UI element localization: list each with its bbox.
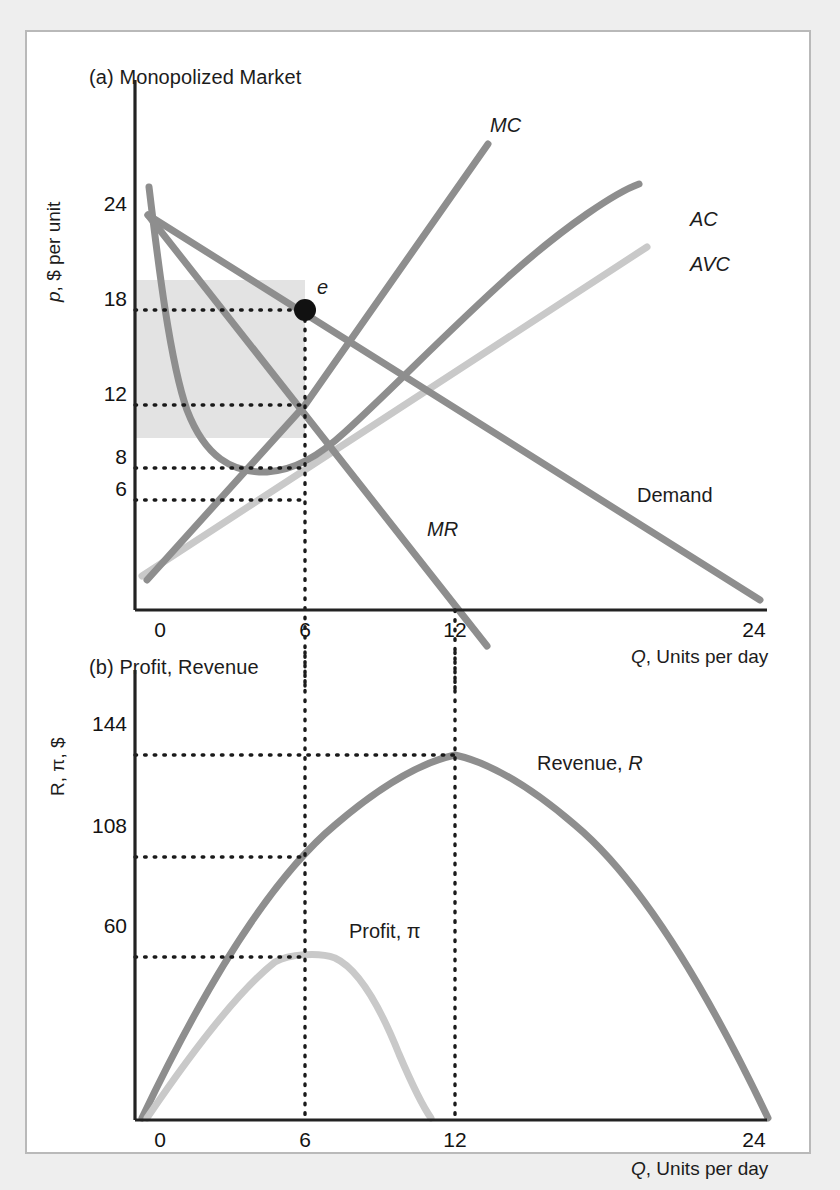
panel-a-xtick-12: 12 xyxy=(430,618,480,642)
curve-label-mr: MR xyxy=(427,518,458,541)
panel-a-xtick-24: 24 xyxy=(729,618,779,642)
panel-b-xtick-24: 24 xyxy=(729,1128,779,1152)
panel-a-x-axis-symbol: Q xyxy=(631,646,646,667)
panel-a-y-axis-unit: , $ per unit xyxy=(43,202,64,292)
panel-a-y-axis-symbol: p xyxy=(43,291,64,302)
panel-a-plot xyxy=(27,32,813,1156)
panel-b-x-axis-symbol: Q xyxy=(631,1158,646,1179)
figure-page: (a) Monopolized Market p, $ per unit 24 … xyxy=(0,0,840,1190)
panel-a-title: (a) Monopolized Market xyxy=(89,66,301,89)
panel-b-y-axis-label: R, π, $ xyxy=(47,737,69,796)
panel-b-ytick-108: 108 xyxy=(57,814,127,838)
ac-curve xyxy=(149,184,639,472)
curve-label-avc: AVC xyxy=(690,253,730,276)
panel-a-x-axis-label: Q, Units per day xyxy=(631,646,768,668)
curve-label-demand: Demand xyxy=(637,484,713,507)
curve-label-profit: Profit, π xyxy=(349,920,421,943)
panel-a-x-axis-unit: , Units per day xyxy=(646,646,769,667)
panel-b-x-axis-label: Q, Units per day xyxy=(631,1158,768,1180)
curve-label-revenue-symbol: R xyxy=(628,752,642,774)
panel-b-title: (b) Profit, Revenue xyxy=(89,656,259,679)
panel-b-xtick-6: 6 xyxy=(280,1128,330,1152)
panel-b-xtick-0: 0 xyxy=(135,1128,185,1152)
equilibrium-point-marker xyxy=(294,299,316,321)
panel-a-ytick-12: 12 xyxy=(69,382,127,406)
panel-b-ytick-60: 60 xyxy=(57,914,127,938)
panel-a-ytick-8: 8 xyxy=(69,445,127,469)
figure-card: (a) Monopolized Market p, $ per unit 24 … xyxy=(25,30,811,1154)
panel-a-xtick-6: 6 xyxy=(280,618,330,642)
profit-area-label: π = 60 xyxy=(192,348,254,372)
panel-a-ytick-6: 6 xyxy=(69,477,127,501)
panel-a-ytick-18: 18 xyxy=(69,287,127,311)
revenue-curve xyxy=(142,755,768,1118)
curve-label-profit-symbol: π xyxy=(407,920,421,942)
panel-b-xtick-12: 12 xyxy=(430,1128,480,1152)
curve-label-revenue: Revenue, R xyxy=(537,752,643,775)
curve-label-revenue-text: Revenue, xyxy=(537,752,628,774)
panel-a-ytick-24: 24 xyxy=(69,192,127,216)
avc-curve xyxy=(142,247,647,576)
profit-curve xyxy=(147,955,431,1118)
panel-b-x-axis-unit: , Units per day xyxy=(646,1158,769,1179)
panel-b-plot xyxy=(27,32,813,1156)
equilibrium-point-label: e xyxy=(317,276,328,299)
curve-label-ac: AC xyxy=(690,208,718,231)
panel-a-xtick-0: 0 xyxy=(135,618,185,642)
panel-a-y-axis-label: p, $ per unit xyxy=(43,202,65,302)
curve-label-mc: MC xyxy=(490,114,521,137)
curve-label-profit-text: Profit, xyxy=(349,920,407,942)
panel-b-ytick-144: 144 xyxy=(57,712,127,736)
demand-curve xyxy=(148,215,760,600)
